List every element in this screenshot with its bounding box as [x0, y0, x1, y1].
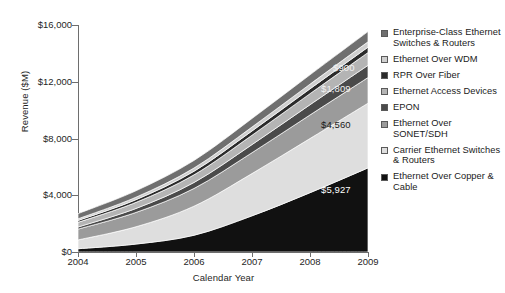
- legend-swatch-icon: [381, 174, 388, 181]
- x-tick-mark: [136, 252, 137, 257]
- y-tick-label: $4,000: [14, 190, 72, 200]
- x-tick-mark: [78, 252, 79, 257]
- x-tick-mark: [194, 252, 195, 257]
- legend-item[interactable]: RPR Over Fiber: [381, 70, 503, 81]
- legend-item[interactable]: Ethernet Over SONET/SDH: [381, 118, 503, 139]
- legend-swatch-icon: [381, 56, 388, 63]
- x-axis-title: Calendar Year: [78, 272, 369, 283]
- legend-item[interactable]: Ethernet Access Devices: [381, 86, 503, 97]
- y-axis-title: Revenue ($M): [19, 42, 30, 162]
- legend-item[interactable]: Carrier Ethernet Switches & Routers: [381, 145, 503, 166]
- legend-item[interactable]: EPON: [381, 102, 503, 113]
- legend-item-label: Ethernet Over SONET/SDH: [393, 118, 503, 139]
- legend-item-label: Ethernet Over WDM: [393, 54, 478, 65]
- x-tick-label: 2009: [338, 256, 398, 267]
- legend-item[interactable]: Enterprise-Class Ethernet Switches & Rou…: [381, 27, 503, 48]
- legend-item-label: Ethernet Access Devices: [393, 86, 497, 97]
- stacked-area-series: [78, 25, 368, 252]
- plot-area: [78, 25, 368, 252]
- x-axis-line: [78, 252, 369, 253]
- y-tick-label: $16,000: [14, 20, 72, 30]
- revenue-stacked-area-chart: Revenue ($M) $0$4,000$8,000$12,000$16,00…: [0, 0, 505, 293]
- x-tick-label: 2005: [106, 256, 166, 267]
- legend-swatch-icon: [381, 88, 388, 95]
- chart-legend: Enterprise-Class Ethernet Switches & Rou…: [381, 27, 503, 198]
- legend-item-label: Carrier Ethernet Switches & Routers: [393, 145, 503, 166]
- legend-item-label: EPON: [393, 102, 420, 113]
- legend-swatch-icon: [381, 30, 388, 37]
- legend-item-label: Enterprise-Class Ethernet Switches & Rou…: [393, 27, 503, 48]
- y-tick-label: $8,000: [14, 134, 72, 144]
- x-tick-mark: [310, 252, 311, 257]
- x-tick-mark: [368, 252, 369, 257]
- legend-item-label: RPR Over Fiber: [393, 70, 460, 81]
- legend-item[interactable]: Ethernet Over WDM: [381, 54, 503, 65]
- x-tick-label: 2008: [280, 256, 340, 267]
- x-tick-mark: [252, 252, 253, 257]
- legend-swatch-icon: [381, 121, 388, 128]
- legend-item-label: Ethernet Over Copper & Cable: [393, 171, 503, 192]
- x-tick-label: 2004: [48, 256, 108, 267]
- legend-item[interactable]: Ethernet Over Copper & Cable: [381, 171, 503, 192]
- x-tick-label: 2007: [222, 256, 282, 267]
- legend-swatch-icon: [381, 72, 388, 79]
- legend-swatch-icon: [381, 147, 388, 154]
- x-tick-label: 2006: [164, 256, 224, 267]
- legend-swatch-icon: [381, 104, 388, 111]
- y-tick-label: $12,000: [14, 77, 72, 87]
